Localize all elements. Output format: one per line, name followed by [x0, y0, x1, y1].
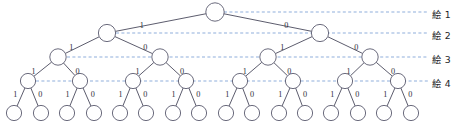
- edge-label-0: 0: [354, 43, 358, 52]
- tree-edge-l1-n0-right: [224, 14, 312, 32]
- tree-node-l3-3[interactable]: [260, 49, 276, 65]
- tree-node-l3-2[interactable]: [152, 49, 168, 65]
- level-guide-lines: [36, 12, 428, 81]
- edge-label-0: 0: [180, 67, 184, 76]
- edge-label-0: 0: [355, 90, 359, 99]
- tree-node-l5-16[interactable]: [403, 105, 418, 120]
- tree-edge-l4-n6-left: [334, 88, 342, 106]
- tree-edge-l3-n1-left: [139, 62, 154, 75]
- edge-label-1: 1: [13, 90, 17, 99]
- tree-edge-l4-n7-left: [387, 88, 395, 106]
- tree-node-l3-1[interactable]: [50, 49, 66, 65]
- tree-node-l4-2[interactable]: [72, 73, 87, 88]
- edge-label-1: 1: [119, 90, 123, 99]
- edge-label-0: 0: [91, 90, 95, 99]
- tree-edges: [17, 14, 408, 106]
- tree-edge-l3-n3-left: [350, 63, 364, 76]
- edge-label-1: 1: [278, 90, 282, 99]
- edge-label-1: 1: [280, 43, 284, 52]
- tree-edge-l3-n0-right: [64, 63, 75, 75]
- level-label-4: 絵 4: [432, 76, 451, 90]
- edge-label-0: 0: [303, 90, 307, 99]
- edge-label-0: 0: [250, 90, 254, 99]
- tree-node-l4-6[interactable]: [285, 73, 300, 88]
- tree-node-l5-11[interactable]: [271, 105, 286, 120]
- tree-edge-l4-n7-right: [401, 88, 408, 106]
- tree-node-l2-1[interactable]: [98, 24, 115, 41]
- edge-label-1: 1: [32, 67, 36, 76]
- tree-node-l5-7[interactable]: [165, 105, 180, 120]
- tree-edge-l4-n4-right: [243, 88, 250, 106]
- edge-label-1: 1: [383, 90, 387, 99]
- tree-nodes: [6, 3, 418, 121]
- edge-labels: 101010101010101010101010101010: [13, 21, 412, 99]
- tree-edge-l3-n0-left: [34, 62, 52, 76]
- tree-edge-l4-n3-left: [176, 88, 183, 106]
- tree-edge-l3-n2-left: [246, 62, 262, 76]
- tree-node-l5-13[interactable]: [323, 105, 338, 120]
- tree-node-l5-9[interactable]: [218, 105, 233, 120]
- tree-node-l4-7[interactable]: [337, 73, 352, 88]
- tree-edge-l4-n0-left: [17, 88, 25, 106]
- edge-label-0: 0: [143, 90, 147, 99]
- tree-node-l5-8[interactable]: [191, 105, 206, 120]
- tree-edge-l4-n1-left: [70, 88, 77, 106]
- edge-label-0: 0: [143, 43, 147, 52]
- tree-node-l2-2[interactable]: [311, 24, 328, 41]
- edge-label-1: 1: [135, 67, 139, 76]
- tree-edge-l4-n3-right: [189, 88, 196, 106]
- level-label-2: 絵 2: [432, 28, 451, 42]
- tree-edge-l4-n5-left: [282, 88, 290, 106]
- tree-edge-l4-n5-right: [296, 88, 303, 106]
- tree-node-l5-10[interactable]: [244, 105, 259, 120]
- tree-diagram-canvas: 101010101010101010101010101010 絵 1絵 2絵 3…: [0, 0, 461, 132]
- edge-label-1: 1: [69, 43, 73, 52]
- tree-node-l5-12[interactable]: [297, 105, 312, 120]
- tree-node-l5-14[interactable]: [350, 105, 365, 120]
- tree-node-l5-4[interactable]: [86, 105, 101, 120]
- edge-label-1: 1: [347, 67, 351, 76]
- tree-edge-l1-n0-left: [115, 14, 206, 32]
- tree-edge-l4-n2-left: [123, 88, 130, 106]
- level-label-3: 絵 3: [432, 52, 451, 66]
- tree-node-l5-5[interactable]: [112, 105, 127, 120]
- edge-label-0: 0: [76, 67, 80, 76]
- tree-edge-l4-n6-right: [348, 88, 355, 106]
- tree-node-l5-15[interactable]: [376, 105, 391, 120]
- edge-label-0: 0: [408, 90, 412, 99]
- edge-label-1: 1: [225, 90, 229, 99]
- tree-node-l1-1[interactable]: [206, 3, 224, 21]
- edge-label-1: 1: [140, 21, 144, 30]
- edge-label-1: 1: [243, 67, 247, 76]
- edge-label-0: 0: [287, 67, 291, 76]
- tree-edge-l3-n2-right: [274, 63, 288, 76]
- edge-label-0: 0: [196, 90, 200, 99]
- edge-label-0: 0: [284, 21, 288, 30]
- edge-label-1: 1: [66, 90, 70, 99]
- edge-label-0: 0: [38, 90, 42, 99]
- tree-edge-l3-n1-right: [166, 63, 180, 76]
- tree-edge-l4-n4-left: [229, 88, 237, 106]
- edge-label-1: 1: [330, 90, 334, 99]
- tree-node-l3-4[interactable]: [362, 49, 378, 65]
- tree-edge-l4-n0-right: [31, 88, 38, 106]
- tree-edge-l4-n2-right: [136, 88, 143, 106]
- edge-label-0: 0: [391, 67, 395, 76]
- binary-tree-svg: 101010101010101010101010101010: [0, 0, 461, 132]
- tree-node-l5-3[interactable]: [59, 105, 74, 120]
- tree-node-l5-2[interactable]: [33, 105, 48, 120]
- tree-node-l5-1[interactable]: [6, 105, 21, 120]
- edge-label-1: 1: [172, 90, 176, 99]
- level-label-1: 絵 1: [432, 7, 451, 21]
- tree-node-l5-6[interactable]: [138, 105, 153, 120]
- tree-edge-l3-n3-right: [376, 62, 392, 76]
